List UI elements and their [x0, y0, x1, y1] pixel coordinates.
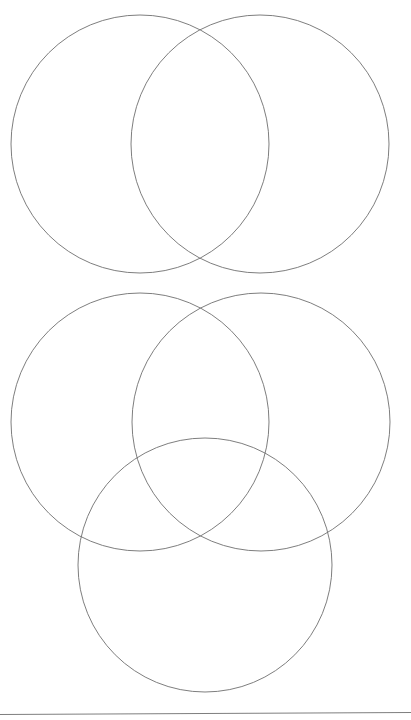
two-set-right-circle[interactable] — [131, 15, 389, 273]
venn-diagram-canvas — [0, 0, 411, 720]
three-set-upper-left-circle[interactable] — [11, 293, 269, 551]
three-set-upper-right-circle[interactable] — [132, 293, 390, 551]
two-set-left-circle[interactable] — [11, 15, 269, 273]
three-set-venn-diagram — [11, 293, 390, 692]
footer-rule — [0, 713, 411, 715]
worksheet-page — [0, 0, 411, 720]
three-set-bottom-circle[interactable] — [78, 438, 332, 692]
two-set-venn-diagram — [11, 15, 389, 273]
